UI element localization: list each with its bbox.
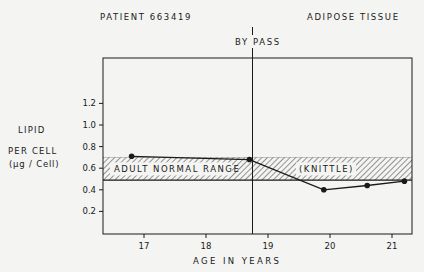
chart-plot: ADULT NORMAL RANGE(KNITTLE) 0.20.40.60.8… [0, 0, 424, 272]
x-tick-label: 18 [201, 241, 212, 251]
data-point [402, 178, 408, 184]
band-source-label: (KNITTLE) [299, 164, 354, 174]
x-axis-ticks: 1718192021 [139, 234, 398, 251]
y-tick-label: 0.2 [82, 206, 96, 216]
x-tick-label: 20 [325, 241, 336, 251]
band-label: ADULT NORMAL RANGE [114, 164, 240, 174]
data-point [321, 187, 327, 193]
x-tick-label: 21 [387, 241, 398, 251]
y-tick-label: 1.0 [82, 120, 96, 130]
plot-frame [103, 58, 412, 234]
x-tick-label: 17 [139, 241, 150, 251]
normal-range-band: ADULT NORMAL RANGE(KNITTLE) [103, 157, 412, 180]
y-axis-ticks: 0.20.40.60.81.01.2 [82, 98, 103, 216]
y-tick-label: 0.4 [82, 185, 96, 195]
y-tick-label: 0.8 [82, 142, 96, 152]
x-tick-label: 19 [263, 241, 274, 251]
data-point [364, 183, 370, 189]
data-point [129, 154, 135, 160]
y-tick-label: 1.2 [82, 98, 96, 108]
data-point [247, 157, 253, 163]
y-tick-label: 0.6 [82, 163, 96, 173]
